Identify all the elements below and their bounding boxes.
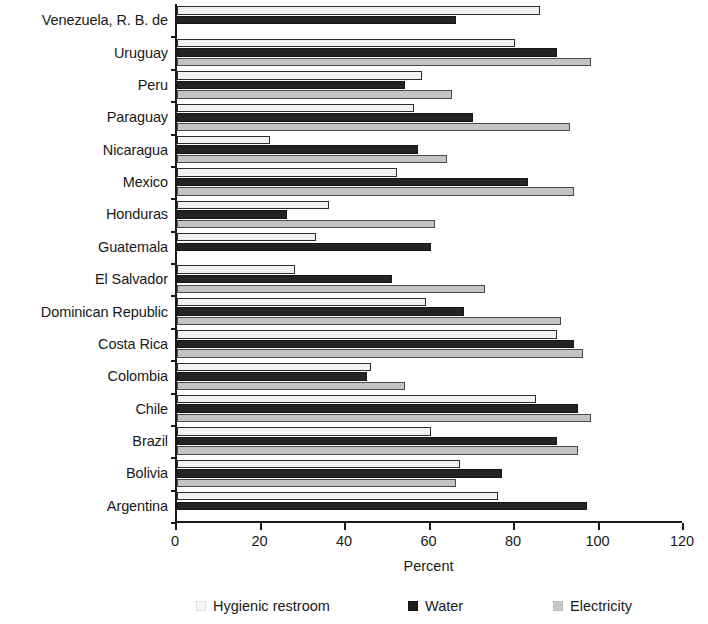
- bar-chart: Venezuela, R. B. deUruguayPeruParaguayNi…: [0, 0, 708, 624]
- bar-water: [177, 178, 528, 186]
- category-label: Colombia: [0, 368, 168, 384]
- legend-item-electricity: Electricity: [553, 596, 632, 616]
- x-axis-tick-label: 60: [399, 533, 459, 550]
- bar-electricity: [177, 446, 578, 454]
- category-label: Brazil: [0, 433, 168, 449]
- bar-restroom: [177, 71, 422, 79]
- bar-water: [177, 48, 557, 56]
- bar-restroom: [177, 39, 515, 47]
- legend-item-restroom: Hygienic restroom: [196, 596, 330, 616]
- x-axis-tick-label: 80: [483, 533, 543, 550]
- bar-electricity: [177, 349, 583, 357]
- bar-restroom: [177, 330, 557, 338]
- category-label: El Salvador: [0, 271, 168, 287]
- x-axis-tick-label: 40: [314, 533, 374, 550]
- category-label: Uruguay: [0, 45, 168, 61]
- bar-water: [177, 340, 574, 348]
- category-label: Peru: [0, 77, 168, 93]
- category-label: Mexico: [0, 174, 168, 190]
- bar-water: [177, 437, 557, 445]
- x-axis-tick-label: 0: [145, 533, 205, 550]
- bar-electricity: [177, 155, 447, 163]
- x-axis-tick: [598, 523, 600, 530]
- electricity-swatch: [553, 601, 563, 611]
- bar-water: [177, 275, 392, 283]
- bar-electricity: [177, 187, 574, 195]
- bar-electricity: [177, 479, 456, 487]
- bar-electricity: [177, 90, 452, 98]
- bar-restroom: [177, 427, 431, 435]
- bar-restroom: [177, 460, 460, 468]
- legend-item-water: Water: [408, 596, 463, 616]
- bar-electricity: [177, 414, 591, 422]
- category-label: Honduras: [0, 206, 168, 222]
- bar-restroom: [177, 298, 426, 306]
- x-axis-tick-label: 20: [230, 533, 290, 550]
- category-label: Venezuela, R. B. de: [0, 12, 168, 28]
- bar-water: [177, 243, 431, 251]
- x-axis: 020406080100120: [175, 521, 682, 523]
- x-axis-title: Percent: [175, 558, 682, 575]
- x-axis-tick: [513, 523, 515, 530]
- bar-electricity: [177, 382, 405, 390]
- legend-label: Hygienic restroom: [213, 596, 330, 616]
- bar-restroom: [177, 265, 295, 273]
- category-label: Bolivia: [0, 465, 168, 481]
- chart-legend: Hygienic restroomWaterElectricity: [0, 596, 708, 620]
- bar-restroom: [177, 6, 540, 14]
- bar-water: [177, 404, 578, 412]
- bar-water: [177, 113, 473, 121]
- bar-water: [177, 210, 287, 218]
- category-label: Argentina: [0, 498, 168, 514]
- bar-electricity: [177, 58, 591, 66]
- category-label: Nicaragua: [0, 142, 168, 158]
- x-axis-tick: [175, 523, 177, 530]
- bar-electricity: [177, 317, 561, 325]
- bar-restroom: [177, 136, 270, 144]
- category-label: Chile: [0, 401, 168, 417]
- bar-water: [177, 145, 418, 153]
- bar-electricity: [177, 220, 435, 228]
- bar-restroom: [177, 233, 316, 241]
- category-label: Costa Rica: [0, 336, 168, 352]
- legend-label: Water: [425, 596, 463, 616]
- bar-electricity: [177, 123, 570, 131]
- restroom-swatch: [196, 601, 206, 611]
- bar-restroom: [177, 363, 371, 371]
- bar-water: [177, 502, 587, 510]
- x-axis-tick-label: 100: [568, 533, 628, 550]
- bar-water: [177, 469, 502, 477]
- bar-water: [177, 307, 464, 315]
- x-axis-tick: [260, 523, 262, 530]
- category-label: Paraguay: [0, 109, 168, 125]
- x-axis-tick: [682, 523, 684, 530]
- category-label: Guatemala: [0, 239, 168, 255]
- bar-restroom: [177, 492, 498, 500]
- bar-restroom: [177, 201, 329, 209]
- bar-restroom: [177, 395, 536, 403]
- category-axis-labels: Venezuela, R. B. deUruguayPeruParaguayNi…: [0, 4, 168, 522]
- bar-restroom: [177, 104, 414, 112]
- bar-restroom: [177, 168, 397, 176]
- water-swatch: [408, 601, 418, 611]
- bar-water: [177, 81, 405, 89]
- x-axis-tick-label: 120: [652, 533, 708, 550]
- x-axis-tick: [344, 523, 346, 530]
- bar-water: [177, 16, 456, 24]
- category-label: Dominican Republic: [0, 304, 168, 320]
- x-axis-tick: [429, 523, 431, 530]
- bar-electricity: [177, 285, 485, 293]
- bar-water: [177, 372, 367, 380]
- plot-area: [175, 4, 682, 522]
- legend-label: Electricity: [570, 596, 632, 616]
